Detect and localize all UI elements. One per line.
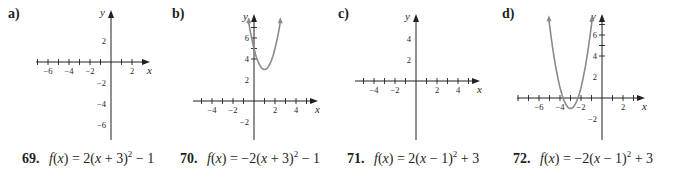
y-tick-label: −4 xyxy=(97,99,107,109)
y-axis-label: y xyxy=(404,10,410,22)
y-axis-arrow-icon xyxy=(413,14,419,22)
x-tick-label: 2 xyxy=(621,102,625,112)
x-tick-label: −4 xyxy=(64,66,74,76)
equation-body: f(x) = 2(x + 3)2 − 1 xyxy=(49,151,154,166)
equation-69: 69. f(x) = 2(x + 3)2 − 1 xyxy=(22,149,154,167)
x-tick-label: −2 xyxy=(228,105,237,115)
y-tick-label: 6 xyxy=(593,30,597,40)
x-axis-label: x xyxy=(476,83,482,95)
equation-body: f(x) = 2(x − 1)2 + 3 xyxy=(374,151,479,166)
equation-70: 70. f(x) = −2(x + 3)2 − 1 xyxy=(180,149,320,167)
panel-label: a) xyxy=(8,6,20,22)
panel-label: b) xyxy=(172,6,185,22)
graph-b: b)−4−224642−2xy xyxy=(172,6,320,140)
y-tick-label: −2 xyxy=(97,78,106,88)
y-tick-label: 2 xyxy=(593,72,597,82)
y-tick-label: −2 xyxy=(588,114,597,124)
y-tick-label: 4 xyxy=(245,54,250,64)
y-tick-label: 2 xyxy=(407,55,411,65)
x-tick-label: 4 xyxy=(456,85,461,95)
graph-c: c)−4−22442xy xyxy=(338,6,482,140)
equation-number: 72. xyxy=(513,151,531,166)
equation-72: 72. f(x) = −2(x − 1)2 + 3 xyxy=(513,149,653,167)
y-tick-label: 2 xyxy=(245,75,249,85)
y-tick-label: 2 xyxy=(102,36,106,46)
y-axis-label: y xyxy=(242,10,248,22)
x-tick-label: 2 xyxy=(273,105,277,115)
x-tick-label: −4 xyxy=(369,85,379,95)
y-axis-arrow-icon xyxy=(108,10,114,18)
x-tick-label: −4 xyxy=(207,105,217,115)
equation-71: 71. f(x) = 2(x − 1)2 + 3 xyxy=(347,149,479,167)
y-tick-label: −2 xyxy=(240,117,249,127)
x-axis-label: x xyxy=(146,64,152,76)
y-axis-arrow-icon xyxy=(251,14,257,22)
x-tick-label: 2 xyxy=(130,66,134,76)
y-axis-label: y xyxy=(99,6,105,18)
equation-number: 69. xyxy=(22,151,40,166)
x-tick-label: −4 xyxy=(555,102,565,112)
x-axis-label: x xyxy=(641,100,647,112)
curve-arrow-icon xyxy=(278,17,283,23)
equation-number: 70. xyxy=(180,151,198,166)
panel-label: d) xyxy=(502,6,515,22)
graph-d: d)−6−4−22642−2xy xyxy=(502,6,647,140)
x-tick-label: 2 xyxy=(435,85,439,95)
y-tick-label: 4 xyxy=(407,34,412,44)
curve-arrow-icon xyxy=(546,15,551,21)
y-tick-label: 6 xyxy=(245,33,249,43)
panel-label: c) xyxy=(338,6,349,22)
y-tick-label: −6 xyxy=(97,120,106,130)
x-tick-label: 4 xyxy=(294,105,299,115)
x-tick-label: −2 xyxy=(85,66,94,76)
x-axis-label: x xyxy=(314,103,320,115)
equation-number: 71. xyxy=(347,151,365,166)
x-tick-label: −2 xyxy=(390,85,399,95)
x-tick-label: −6 xyxy=(43,66,52,76)
equation-body: f(x) = −2(x + 3)2 − 1 xyxy=(207,151,320,166)
equation-body: f(x) = −2(x − 1)2 + 3 xyxy=(540,151,653,166)
y-axis-arrow-icon xyxy=(599,14,605,22)
graph-a: a)−6−4−222−2−4−6xy xyxy=(8,6,152,140)
x-tick-label: −6 xyxy=(534,102,543,112)
x-tick-label: −2 xyxy=(576,102,585,112)
y-tick-label: 4 xyxy=(593,51,598,61)
